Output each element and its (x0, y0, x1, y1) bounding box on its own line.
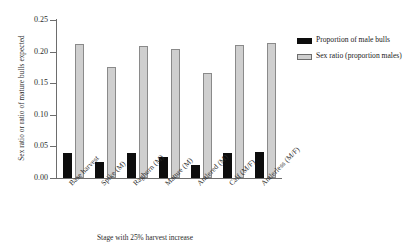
bar-proportion-male-bulls (127, 153, 136, 178)
plot-area (57, 20, 281, 178)
chart-legend: Proportion of male bulls Sex ratio (prop… (297, 36, 415, 68)
y-tick-mark (50, 178, 57, 179)
y-axis-title: Sex ratio or ratio of mature bulls expec… (18, 8, 26, 188)
y-tick-label: 0.05 (14, 142, 48, 150)
bar-sex-ratio (139, 46, 148, 178)
legend-item-proportion-male-bulls: Proportion of male bulls (297, 36, 415, 45)
gray-swatch-icon (297, 54, 312, 60)
legend-label: Sex ratio (proportion males) (316, 52, 402, 61)
y-tick-label: 0.20 (14, 48, 48, 56)
y-tick-mark (50, 52, 57, 53)
bar-sex-ratio (235, 45, 244, 178)
y-tick-label: 0.10 (14, 111, 48, 119)
y-tick-mark (50, 20, 57, 21)
bar-proportion-male-bulls (63, 153, 72, 178)
bar-sex-ratio (75, 44, 84, 178)
bar-proportion-male-bulls (255, 152, 264, 178)
y-tick-label: 0.15 (14, 79, 48, 87)
y-tick-mark (50, 146, 57, 147)
bar-sex-ratio (107, 67, 116, 178)
bar-group (223, 20, 249, 178)
bar-group (159, 20, 185, 178)
legend-item-sex-ratio: Sex ratio (proportion males) (297, 52, 415, 61)
bar-chart-figure: Sex ratio or ratio of mature bulls expec… (0, 0, 417, 243)
y-tick-mark (50, 115, 57, 116)
bar-group (63, 20, 89, 178)
bar-sex-ratio (171, 49, 180, 178)
y-tick-mark (50, 83, 57, 84)
bar-sex-ratio (203, 73, 212, 178)
y-tick-label: 0.25 (14, 16, 48, 24)
bar-group (127, 20, 153, 178)
black-swatch-icon (297, 38, 312, 44)
x-axis-title: Stage with 25% harvest increase (0, 233, 290, 242)
bar-sex-ratio (267, 43, 276, 178)
bar-group (95, 20, 121, 178)
bar-group (191, 20, 217, 178)
y-tick-label: 0.00 (14, 174, 48, 182)
bar-group (255, 20, 281, 178)
legend-label: Proportion of male bulls (316, 36, 390, 45)
